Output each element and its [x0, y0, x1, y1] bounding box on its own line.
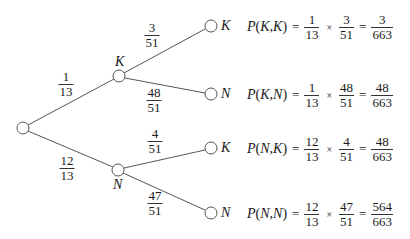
prob-fraction-K-N: 48 51 [147, 87, 162, 114]
fraction-first: 1213 [304, 136, 319, 163]
fraction-first: 113 [304, 14, 319, 41]
denominator: 51 [147, 100, 162, 114]
equation-lhs: P(N,K) [247, 141, 287, 157]
fraction-second: 4751 [339, 201, 354, 228]
equals-sign: = [359, 19, 366, 35]
denominator: 13 [59, 84, 74, 98]
denominator: 51 [148, 203, 163, 217]
denominator: 51 [145, 35, 160, 49]
leaf-NK-label: K [221, 141, 230, 155]
numerator: 12 [60, 155, 75, 168]
prob-fraction-N-N: 47 51 [148, 190, 163, 217]
times-sign: × [326, 22, 332, 33]
branch-K-to-KK [124, 29, 205, 73]
prob-fraction-root-K: 1 13 [59, 71, 74, 98]
prob-fraction-K-K: 3 51 [145, 22, 160, 49]
numerator: 47 [148, 190, 163, 203]
node-N-circle [112, 164, 124, 176]
fraction-second: 4851 [339, 82, 354, 109]
numerator: 48 [147, 87, 162, 100]
equation-lhs: P(K,K) [247, 19, 287, 35]
fraction-result: 3663 [371, 14, 393, 41]
prob-fraction-root-N: 12 13 [60, 155, 75, 182]
numerator: 3 [148, 22, 157, 35]
root-node-circle [17, 122, 29, 134]
times-sign: × [326, 209, 332, 220]
leaf-NN-label: N [221, 206, 230, 220]
fraction-result: 48663 [371, 136, 393, 163]
prob-fraction-N-K: 4 51 [148, 128, 163, 155]
fraction-first: 1213 [304, 201, 319, 228]
equals-sign: = [359, 141, 366, 157]
equals-sign: = [292, 141, 299, 157]
denominator: 13 [60, 168, 75, 182]
leaf-KK-label: K [221, 19, 230, 33]
equals-sign: = [292, 87, 299, 103]
leaf-NN-circle [205, 207, 217, 219]
denominator: 51 [148, 141, 163, 155]
times-sign: × [326, 144, 332, 155]
numerator: 4 [151, 128, 160, 141]
equals-sign: = [292, 206, 299, 222]
leaf-KN-circle [205, 88, 217, 100]
equation-NK: P(N,K) = 1213 × 451 = 48663 [247, 134, 393, 164]
branch-N-to-NK [124, 150, 205, 168]
node-K-label: K [115, 55, 124, 69]
equation-lhs: P(N,N) [247, 206, 287, 222]
equation-KN: P(K,N) = 113 × 4851 = 48663 [247, 80, 393, 110]
leaf-KK-circle [205, 20, 217, 32]
equation-KK: P(K,K) = 113 × 351 = 3663 [247, 12, 393, 42]
leaf-KN-label: N [221, 87, 230, 101]
equals-sign: = [359, 87, 366, 103]
fraction-first: 113 [304, 82, 319, 109]
fraction-second: 351 [339, 14, 354, 41]
equation-lhs: P(K,N) [247, 87, 287, 103]
leaf-NK-circle [205, 142, 217, 154]
fraction-result: 48663 [371, 82, 393, 109]
fraction-result: 564663 [371, 201, 393, 228]
fraction-second: 451 [339, 136, 354, 163]
numerator: 1 [62, 71, 71, 84]
node-K-circle [113, 70, 125, 82]
branch-K-to-KN [125, 78, 205, 93]
branch-N-to-NN [123, 173, 205, 210]
node-N-label: N [113, 178, 122, 192]
equals-sign: = [292, 19, 299, 35]
probability-tree-diagram: K N K N K N 1 13 12 13 3 51 48 51 4 51 4… [0, 0, 410, 239]
equals-sign: = [359, 206, 366, 222]
times-sign: × [326, 90, 332, 101]
equation-NN: P(N,N) = 1213 × 4751 = 564663 [247, 199, 393, 229]
